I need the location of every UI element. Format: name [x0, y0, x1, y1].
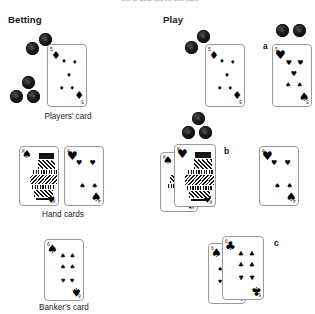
chip: [22, 76, 35, 89]
group-b-card-four[interactable]: 4 4 ♥ ♥ ♥ ♠ ♠ ♠: [259, 146, 299, 206]
chip: [27, 90, 40, 103]
chip: [10, 90, 23, 103]
chip: [185, 41, 198, 54]
figure-canvas: with all cards and the deal starts Betti…: [0, 0, 315, 314]
group-b-card-king-hearts-front[interactable]: K K ♥ ♠: [174, 144, 216, 207]
chip: [192, 112, 205, 125]
chip: [182, 126, 195, 139]
play-players-card[interactable]: 5 5 ♦ ♦ ♦ ♦ ♦ ♦ ♦: [205, 44, 245, 107]
clipped-top-caption: with all cards and the deal starts: [70, 0, 250, 2]
hand-card-four[interactable]: 4 4 ♥ ♥ ♥ ♠ ♠ ♠: [64, 146, 104, 206]
bankers-card[interactable]: 6 6 ♠ ♠ ♠ ♠ ♠ ♠ ♠ ♠: [44, 239, 84, 301]
chip: [276, 24, 289, 37]
chip: [26, 42, 39, 55]
chip: [199, 126, 212, 139]
column-heading-betting: Betting: [8, 14, 42, 25]
group-label-b: b: [224, 146, 229, 156]
column-heading-play: Play: [163, 14, 183, 25]
group-a-card[interactable]: 5 5 ♥ ♥ ♥ ♥ ♠ ♠ ♠: [272, 44, 312, 107]
group-label-a: a: [263, 41, 268, 51]
hand-card-king-spades[interactable]: K K ♠ ♠: [19, 146, 59, 206]
group-label-c: c: [274, 238, 279, 248]
row-label-bankers-card: Banker's card: [18, 303, 110, 312]
king-figure-artwork: [175, 145, 215, 206]
king-figure-artwork: [20, 147, 58, 205]
players-card[interactable]: 5 5 ♦ ♦ ♦ ♦ ♦ ♦ ♦: [47, 44, 87, 107]
chip: [293, 24, 306, 37]
group-c-card-six-clubs-front[interactable]: 6 6 ♣ ♣ ♣ ♣ ♣ ♣ ♣ ♣: [222, 236, 264, 300]
row-label-hand-cards: Hand cards: [17, 210, 109, 219]
row-label-players-card: Players' card: [22, 112, 114, 121]
chip: [197, 30, 210, 43]
